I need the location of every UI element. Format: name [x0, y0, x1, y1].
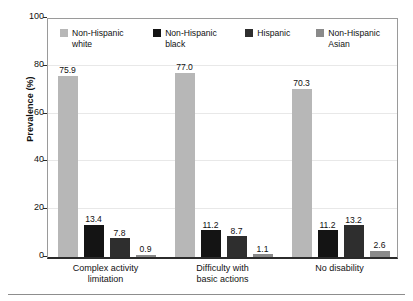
bar-value-label: 13.4 [85, 215, 102, 224]
bottom-divider [8, 294, 405, 295]
y-tick-label: 40 [18, 155, 44, 164]
y-tick-label: 100 [18, 12, 44, 21]
bar[interactable]: 11.2 [201, 230, 221, 257]
bar-value-label: 11.2 [319, 221, 335, 230]
y-tick-mark [43, 113, 47, 114]
y-tick-label: 80 [18, 60, 44, 69]
y-axis-ticks: 020406080100 [14, 0, 44, 301]
bar-value-label: 8.7 [231, 227, 243, 236]
bar[interactable]: 0.9 [136, 255, 156, 257]
bar-group: 75.913.47.80.9 [48, 18, 165, 257]
y-tick-label: 0 [18, 251, 44, 260]
y-tick-mark [43, 17, 47, 18]
bar[interactable]: 2.6 [370, 251, 390, 257]
bar-value-label: 11.2 [202, 221, 218, 230]
x-category-label: Difficulty with basic actions [164, 263, 281, 285]
bar[interactable]: 77.0 [175, 73, 195, 257]
y-tick-label: 60 [18, 108, 44, 117]
bar[interactable]: 1.1 [253, 254, 273, 257]
x-category-label: Complex activity limitation [47, 263, 164, 285]
bar[interactable]: 13.4 [84, 225, 104, 257]
bar-value-label: 2.6 [374, 241, 386, 250]
x-category-label: No disability [281, 263, 398, 274]
y-tick-mark [43, 256, 47, 257]
bar[interactable]: 70.3 [292, 89, 312, 257]
bar-series-container: 75.913.47.80.977.011.28.71.170.311.213.2… [48, 18, 397, 257]
y-tick-mark [43, 208, 47, 209]
y-tick-mark [43, 65, 47, 66]
bar-group: 70.311.213.22.6 [282, 18, 398, 257]
bar[interactable]: 75.9 [58, 76, 78, 257]
y-tick-mark [43, 160, 47, 161]
bar[interactable]: 8.7 [227, 236, 247, 257]
bar-value-label: 75.9 [59, 66, 76, 75]
bar[interactable]: 7.8 [110, 238, 130, 257]
bar[interactable]: 13.2 [344, 225, 364, 257]
bar-value-label: 70.3 [293, 79, 310, 88]
bar-value-label: 77.0 [176, 63, 193, 72]
bar-value-label: 7.8 [114, 229, 126, 238]
bar-value-label: 13.2 [345, 216, 362, 225]
y-tick-label: 20 [18, 203, 44, 212]
bar-group: 77.011.28.71.1 [165, 18, 282, 257]
bar[interactable]: 11.2 [318, 230, 338, 257]
figure: Prevalence (%) 020406080100 Non-Hispanic… [0, 0, 413, 301]
bar-value-label: 0.9 [140, 245, 152, 254]
plot-area: Non-Hispanic whiteNon-Hispanic blackHisp… [47, 18, 398, 259]
bar-value-label: 1.1 [257, 245, 269, 254]
